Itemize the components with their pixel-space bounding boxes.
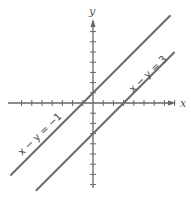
line2-label: x − y = 3 [127, 53, 169, 94]
y-axis-label: y [88, 5, 96, 18]
graph-canvas: x y x − y = −1 x − y = 3 [0, 0, 191, 202]
axes [8, 19, 176, 188]
line1-label: x − y = −1 [16, 111, 64, 158]
y-axis-arrow-icon [91, 19, 96, 27]
x-axis-label: x [180, 97, 187, 110]
line-1 [10, 15, 170, 175]
